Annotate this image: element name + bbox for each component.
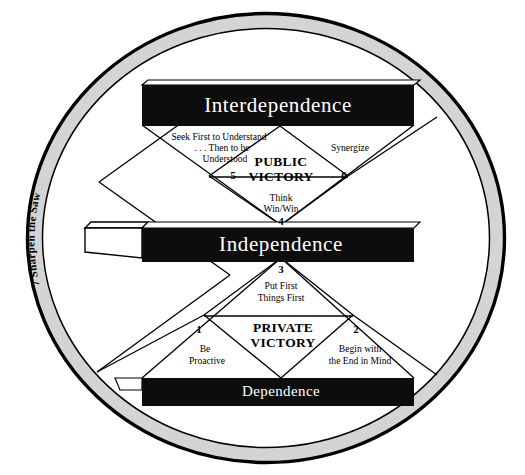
independence-label: Independence	[219, 232, 343, 256]
habit-1-number: 1	[196, 323, 202, 335]
habit-3-number: 3	[278, 263, 284, 275]
habit-4-line2: Win/Win	[264, 203, 299, 214]
private-victory-group: PRIVATE VICTORY	[250, 320, 315, 350]
habit-6-number: 6	[341, 169, 347, 181]
habit-5-line2: . . . Then to be	[194, 142, 249, 153]
habit-5-line3: Understood	[203, 153, 248, 164]
habit-4-number: 4	[278, 215, 284, 227]
habit-3-group: 3 Put First Things First	[258, 263, 305, 304]
independence-slab-left-front	[85, 228, 142, 258]
private-victory-line1: PRIVATE	[253, 320, 313, 335]
interdependence-label: Interdependence	[204, 93, 352, 117]
habit-5-number: 5	[230, 169, 236, 181]
habit-3-line2: Things First	[258, 292, 305, 303]
habit-1-line2: Proactive	[189, 355, 225, 366]
habit-4-line1: Think	[270, 192, 293, 203]
habit-6-line1: Synergize	[331, 142, 369, 153]
public-victory-line1: PUBLIC	[255, 154, 308, 169]
diagram-canvas: 7 Sharpen the Saw	[0, 0, 525, 475]
private-victory-line2: VICTORY	[250, 335, 315, 350]
seven-habits-diagram: 7 Sharpen the Saw	[0, 0, 525, 475]
habit-5-line1: Seek First to Understand	[171, 131, 266, 142]
habit-3-line1: Put First	[265, 280, 298, 291]
level-bar-interdependence: Interdependence	[142, 80, 420, 126]
public-victory-line2: VICTORY	[248, 169, 313, 184]
public-victory-group: PUBLIC VICTORY	[248, 154, 313, 184]
dependence-bar-left-tab	[115, 378, 142, 390]
level-bar-independence: Independence	[85, 222, 420, 262]
habit-1-line1: Be	[200, 343, 211, 354]
independence-slab-left-top	[85, 222, 148, 228]
level-bar-dependence: Dependence	[115, 378, 414, 406]
habit-2-line2: the End in Mind	[329, 355, 392, 366]
dependence-label: Dependence	[242, 383, 320, 399]
habit-2-line1: Begin with	[339, 343, 382, 354]
habit-4-group: Think Win/Win 4	[264, 192, 299, 226]
habit-1-group: 1 Be Proactive	[189, 323, 225, 367]
interdependence-bar-top-edge	[142, 80, 420, 85]
habit-2-number: 2	[353, 323, 359, 335]
